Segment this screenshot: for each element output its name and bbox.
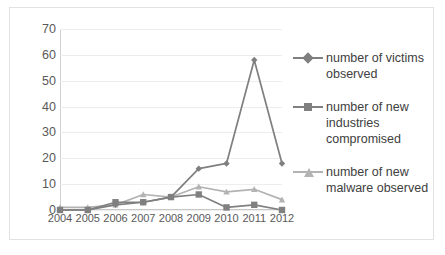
x-tick-label: 2008: [159, 213, 183, 224]
y-tick-label: 20: [42, 152, 56, 165]
legend-entry[interactable]: number of victims observed: [293, 50, 438, 82]
x-tick-label: 2006: [103, 213, 127, 224]
data-point-diamond: [223, 160, 229, 166]
data-point-diamond: [279, 160, 285, 166]
data-point-square: [223, 204, 229, 210]
y-tick-label: 50: [42, 75, 56, 88]
y-tick-label: 70: [42, 23, 56, 36]
legend-entry[interactable]: number of new industries compromised: [293, 99, 438, 147]
x-tick-label: 2005: [76, 213, 100, 224]
gridline: [60, 210, 282, 211]
chart-legend: number of victims observednumber of new …: [293, 50, 438, 213]
x-tick-label: 2012: [270, 213, 294, 224]
legend-entry[interactable]: number of new malware observed: [293, 164, 438, 196]
y-tick-label: 10: [42, 178, 56, 191]
data-point-square: [251, 202, 257, 208]
data-point-diamond: [251, 57, 257, 63]
x-tick-label: 2010: [214, 213, 238, 224]
legend-marker-triangle-icon: [304, 168, 314, 177]
legend-label: number of new malware observed: [323, 164, 438, 196]
legend-swatch: [293, 165, 323, 179]
series-layer: [60, 29, 282, 210]
series-line: [60, 60, 282, 210]
legend-marker-diamond-icon: [302, 52, 313, 63]
x-tick-label: 2007: [131, 213, 155, 224]
legend-swatch: [293, 51, 323, 65]
x-tick-label: 2009: [187, 213, 211, 224]
data-point-square: [196, 191, 202, 197]
legend-swatch: [293, 100, 323, 114]
x-axis: 200420052006200720082009201020112012: [60, 213, 282, 231]
y-tick-label: 40: [42, 101, 56, 114]
legend-marker-square-icon: [304, 103, 312, 111]
y-axis: 010203040506070: [22, 29, 56, 210]
legend-label: number of victims observed: [323, 50, 438, 82]
y-tick-label: 30: [42, 126, 56, 139]
chart-container: 010203040506070 200420052006200720082009…: [9, 7, 434, 240]
plot-area: [60, 29, 282, 210]
y-tick-label: 60: [42, 49, 56, 62]
legend-label: number of new industries compromised: [323, 99, 438, 147]
x-tick-label: 2004: [48, 213, 72, 224]
x-tick-label: 2011: [242, 213, 266, 224]
